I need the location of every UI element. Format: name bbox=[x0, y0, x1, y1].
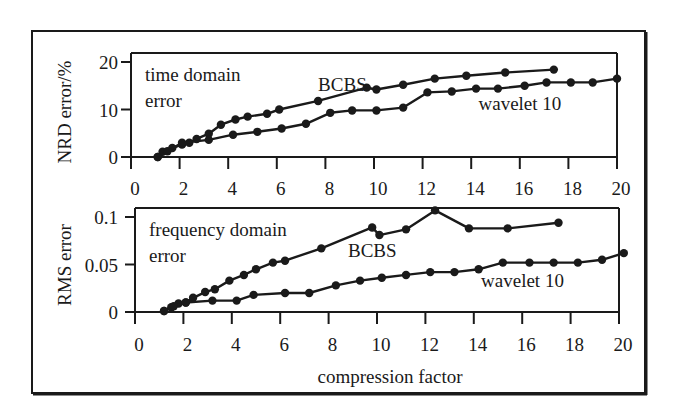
data-point-marker bbox=[399, 81, 407, 89]
data-point-marker bbox=[263, 110, 271, 118]
data-point-marker bbox=[253, 128, 261, 136]
x-tick-label: 20 bbox=[612, 178, 631, 199]
data-point-marker bbox=[402, 271, 410, 279]
y-tick-label: 0.05 bbox=[85, 255, 118, 276]
data-point-marker bbox=[217, 121, 225, 129]
data-point-marker bbox=[554, 219, 562, 227]
bottom-ylabel: RMS error bbox=[54, 223, 75, 305]
data-point-marker bbox=[402, 225, 410, 233]
data-point-marker bbox=[494, 84, 502, 92]
x-tick-label: 0 bbox=[130, 178, 140, 199]
data-point-marker bbox=[574, 258, 582, 266]
x-axis-title: compression factor bbox=[317, 366, 463, 387]
x-tick-label: 16 bbox=[517, 334, 536, 355]
series-line bbox=[158, 79, 617, 157]
x-tick-label: 6 bbox=[279, 334, 289, 355]
data-point-marker bbox=[211, 285, 219, 293]
data-point-marker bbox=[462, 72, 470, 80]
figure-container: NRD error/% RMS error 010200246810121416… bbox=[0, 0, 678, 420]
data-point-marker bbox=[503, 224, 511, 232]
data-point-marker bbox=[356, 276, 364, 284]
data-point-marker bbox=[182, 298, 190, 306]
y-tick-label: 0 bbox=[109, 302, 119, 323]
data-point-marker bbox=[225, 276, 233, 284]
x-tick-label: 12 bbox=[417, 178, 436, 199]
x-tick-label: 10 bbox=[372, 334, 391, 355]
data-point-marker bbox=[170, 302, 178, 310]
x-tick-label: 12 bbox=[420, 334, 439, 355]
panel-annotation: error bbox=[145, 90, 183, 111]
data-point-marker bbox=[163, 147, 171, 155]
data-point-marker bbox=[525, 258, 533, 266]
data-point-marker bbox=[550, 65, 558, 73]
frequency-domain-panel: 00.050.102468101214161820frequency domai… bbox=[85, 206, 633, 355]
data-point-marker bbox=[472, 84, 480, 92]
x-tick-label: 8 bbox=[325, 178, 335, 199]
x-tick-label: 8 bbox=[328, 334, 338, 355]
data-point-marker bbox=[348, 106, 356, 114]
data-point-marker bbox=[231, 115, 239, 123]
y-tick-label: 10 bbox=[99, 100, 118, 121]
x-tick-label: 4 bbox=[227, 178, 237, 199]
data-point-marker bbox=[450, 268, 458, 276]
series-label: BCBS bbox=[318, 74, 367, 95]
data-point-marker bbox=[399, 103, 407, 111]
panel-annotation: error bbox=[149, 245, 187, 266]
data-point-marker bbox=[201, 288, 209, 296]
x-tick-label: 14 bbox=[468, 334, 488, 355]
x-tick-label: 20 bbox=[614, 334, 633, 355]
x-tick-label: 2 bbox=[183, 334, 193, 355]
data-point-marker bbox=[423, 88, 431, 96]
data-point-marker bbox=[372, 106, 380, 114]
data-point-marker bbox=[431, 206, 439, 214]
data-point-marker bbox=[426, 268, 434, 276]
data-point-marker bbox=[613, 74, 621, 82]
data-point-marker bbox=[520, 82, 528, 90]
y-tick-label: 0 bbox=[109, 147, 119, 168]
data-point-marker bbox=[229, 130, 237, 138]
top-ylabel: NRD error/% bbox=[54, 60, 75, 163]
data-point-marker bbox=[252, 265, 260, 273]
data-point-marker bbox=[302, 120, 310, 128]
data-point-marker bbox=[281, 257, 289, 265]
x-tick-label: 18 bbox=[565, 334, 584, 355]
x-tick-label: 18 bbox=[563, 178, 582, 199]
x-tick-label: 16 bbox=[514, 178, 533, 199]
data-point-marker bbox=[431, 74, 439, 82]
data-point-marker bbox=[499, 258, 507, 266]
data-point-marker bbox=[305, 289, 313, 297]
data-point-marker bbox=[549, 258, 557, 266]
series-label: BCBS bbox=[348, 240, 397, 261]
data-point-marker bbox=[375, 231, 383, 239]
data-point-marker bbox=[448, 87, 456, 95]
data-point-marker bbox=[160, 307, 168, 315]
data-point-marker bbox=[269, 258, 277, 266]
data-point-marker bbox=[154, 153, 162, 161]
data-point-marker bbox=[598, 256, 606, 264]
data-point-marker bbox=[465, 224, 473, 232]
series-label: wavelet 10 bbox=[481, 270, 564, 291]
data-point-marker bbox=[178, 139, 186, 147]
y-tick-label: 20 bbox=[99, 52, 118, 73]
data-point-marker bbox=[240, 271, 248, 279]
chart-canvas: NRD error/% RMS error 010200246810121416… bbox=[0, 0, 678, 420]
panel-annotation: frequency domain bbox=[149, 219, 287, 240]
x-tick-label: 0 bbox=[134, 334, 144, 355]
y-tick-label: 0.1 bbox=[94, 207, 118, 228]
data-point-marker bbox=[275, 105, 283, 113]
data-point-marker bbox=[542, 78, 550, 86]
data-point-marker bbox=[567, 78, 575, 86]
data-point-marker bbox=[368, 223, 376, 231]
data-point-marker bbox=[281, 289, 289, 297]
data-point-marker bbox=[277, 124, 285, 132]
panel-annotation: time domain bbox=[145, 64, 241, 85]
data-point-marker bbox=[620, 249, 628, 257]
data-point-marker bbox=[232, 296, 240, 304]
data-point-marker bbox=[372, 85, 380, 93]
x-tick-label: 4 bbox=[231, 334, 241, 355]
data-point-marker bbox=[243, 112, 251, 120]
data-point-marker bbox=[332, 281, 340, 289]
data-point-marker bbox=[501, 68, 509, 76]
data-point-marker bbox=[326, 109, 334, 117]
data-point-marker bbox=[249, 291, 257, 299]
